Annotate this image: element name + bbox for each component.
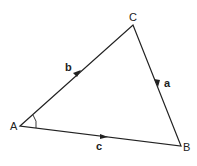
- vertex-label-A: A: [10, 121, 17, 132]
- side-label-b: b: [65, 62, 72, 73]
- side-label-a: a: [164, 78, 170, 89]
- vertex-label-B: B: [183, 142, 190, 153]
- arrow-icon-b: [73, 70, 81, 77]
- side-label-c: c: [96, 141, 102, 152]
- angle-arc-A: [33, 115, 36, 128]
- triangle-diagram: A B C a b c: [0, 0, 197, 166]
- triangle-outline: [20, 25, 181, 146]
- vertex-label-C: C: [129, 12, 137, 23]
